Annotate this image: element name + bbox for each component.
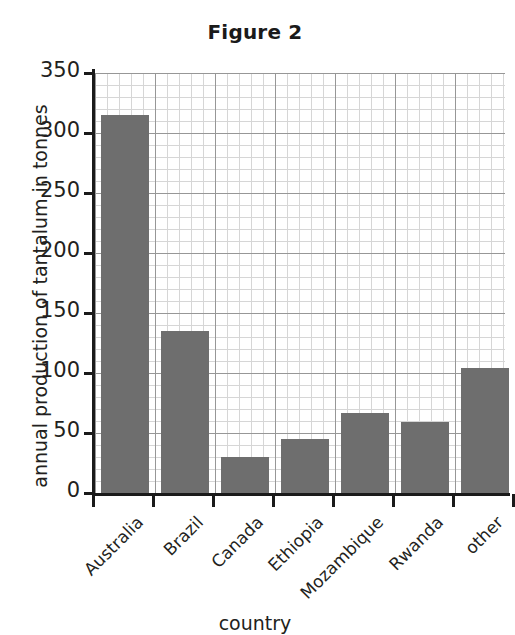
y-tick: [84, 72, 95, 75]
chart-title: Figure 2: [0, 20, 510, 44]
y-tick-label: 250: [0, 178, 80, 202]
y-tick: [84, 432, 95, 435]
bar: [461, 368, 509, 493]
x-tick: [452, 494, 455, 507]
y-tick: [84, 372, 95, 375]
bar: [281, 439, 329, 493]
x-tick: [392, 494, 395, 507]
bar: [401, 422, 449, 493]
x-tick: [92, 494, 95, 507]
y-tick: [84, 252, 95, 255]
x-tick: [272, 494, 275, 507]
y-tick-label: 100: [0, 358, 80, 382]
y-tick-label: 50: [0, 418, 80, 442]
y-tick: [84, 192, 95, 195]
bar: [221, 457, 269, 493]
y-tick-label: 150: [0, 298, 80, 322]
y-axis-title: annual production of tantalum in tonnes: [27, 76, 53, 516]
x-tick: [332, 494, 335, 507]
bar: [101, 115, 149, 493]
x-axis-title: country: [0, 612, 510, 634]
bar-series: [95, 73, 505, 493]
bar: [341, 413, 389, 493]
y-tick: [84, 132, 95, 135]
x-tick: [212, 494, 215, 507]
y-tick-label: 350: [0, 58, 80, 82]
y-tick: [84, 312, 95, 315]
y-tick-label: 0: [0, 478, 80, 502]
x-tick: [152, 494, 155, 507]
y-tick-label: 300: [0, 118, 80, 142]
bar: [161, 331, 209, 493]
y-tick-label: 200: [0, 238, 80, 262]
